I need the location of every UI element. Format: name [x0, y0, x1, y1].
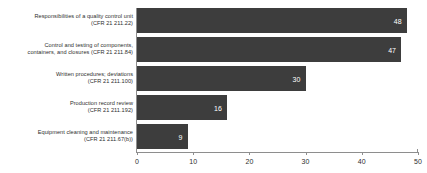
bar-value-label: 47: [388, 46, 396, 53]
category-label-line1: Equipment cleaning and maintenance: [0, 129, 133, 137]
x-axis-tick-label: 10: [189, 158, 197, 166]
category-label: Written procedures; deviations (CFR 21 2…: [0, 71, 133, 86]
x-axis-tick-label: 30: [302, 158, 310, 166]
bar: 16: [137, 95, 227, 120]
x-axis-tick: [193, 152, 194, 155]
category-label: Production record review (CFR 21 211.192…: [0, 100, 133, 115]
category-label: Equipment cleaning and maintenance (CFR …: [0, 129, 133, 144]
x-axis-tick: [137, 152, 138, 155]
category-label-line1: Production record review: [0, 100, 133, 108]
x-axis-line: [136, 152, 418, 153]
bar-value-label: 30: [293, 75, 301, 82]
bar: 48: [137, 8, 407, 33]
horizontal-bar-chart: Responsibilities of a quality control un…: [0, 0, 427, 173]
bar-value-label: 48: [394, 17, 402, 24]
category-label-line2: (CFR 21 211.192): [0, 107, 133, 115]
x-axis-tick-label: 20: [245, 158, 253, 166]
bar: 47: [137, 37, 401, 62]
bar-value-label: 9: [179, 133, 183, 140]
category-label-line1: Responsibilities of a quality control un…: [0, 13, 133, 21]
bar: 9: [137, 124, 188, 149]
category-axis-labels: Responsibilities of a quality control un…: [0, 0, 133, 152]
x-axis-tick: [418, 152, 419, 155]
x-axis-tick-label: 50: [414, 158, 422, 166]
x-axis-tick-label: 40: [358, 158, 366, 166]
category-label: Responsibilities of a quality control un…: [0, 13, 133, 28]
y-axis-line: [136, 8, 137, 152]
bar-value-label: 16: [214, 104, 222, 111]
category-label-line1: Control and testing of components,: [0, 42, 133, 50]
x-axis-tick-label: 0: [135, 158, 139, 166]
category-label-line1: Written procedures; deviations: [0, 71, 133, 79]
x-axis-tick: [306, 152, 307, 155]
category-label-line2: (CFR 21 211.22): [0, 20, 133, 28]
category-label-line2: (CFR 21 211.67(b)): [0, 136, 133, 144]
category-label-line2: (CFR 21 211.100): [0, 78, 133, 86]
category-label-line2: containers, and closures (CFR 21 211.84): [0, 49, 133, 57]
plot-area: 48 47 30 16 9: [137, 0, 418, 152]
x-axis-tick: [249, 152, 250, 155]
x-axis-tick: [362, 152, 363, 155]
bar: 30: [137, 66, 306, 91]
category-label: Control and testing of components, conta…: [0, 42, 133, 57]
